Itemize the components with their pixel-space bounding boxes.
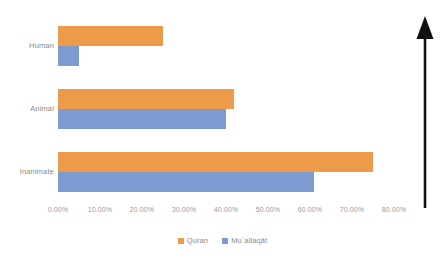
bar-animal-quran xyxy=(58,89,234,109)
bar-human-muallaqat xyxy=(58,46,79,66)
bar-human-quran xyxy=(58,26,163,46)
arrow-up-icon xyxy=(410,14,440,208)
x-axis-tick-2: 20.00% xyxy=(130,206,154,213)
plot-area xyxy=(58,14,394,204)
bar-group-inanimate xyxy=(58,152,394,192)
x-axis-tick-4: 40.00% xyxy=(214,206,238,213)
legend-item-muallaqat: Muʿallaqāt xyxy=(222,236,267,245)
chart-legend: Quran Muʿallaqāt xyxy=(0,236,445,245)
legend-label-muallaqat: Muʿallaqāt xyxy=(231,236,267,245)
legend-swatch-quran xyxy=(178,238,184,244)
x-axis-tick-7: 70.00% xyxy=(340,206,364,213)
y-axis-category-labels: Human Animal Inanimate xyxy=(0,14,54,204)
x-axis: 0.00%10.00%20.00%30.00%40.00%50.00%60.00… xyxy=(58,206,394,220)
upward-arrow-annotation xyxy=(410,14,440,208)
x-axis-tick-3: 30.00% xyxy=(172,206,196,213)
y-axis-label-animal: Animal xyxy=(0,104,54,113)
x-axis-tick-8: 80.00% xyxy=(382,206,406,213)
x-axis-tick-0: 0.00% xyxy=(48,206,68,213)
bar-animal-muallaqat xyxy=(58,109,226,129)
bar-group-animal xyxy=(58,89,394,129)
legend-label-quran: Quran xyxy=(187,236,208,245)
bar-group-human xyxy=(58,26,394,66)
legend-swatch-muallaqat xyxy=(222,238,228,244)
bar-inanimate-muallaqat xyxy=(58,172,314,192)
legend-item-quran: Quran xyxy=(178,236,208,245)
bar-inanimate-quran xyxy=(58,152,373,172)
y-axis-label-inanimate: Inanimate xyxy=(0,167,54,176)
x-axis-tick-6: 60.00% xyxy=(298,206,322,213)
y-axis-label-human: Human xyxy=(0,41,54,50)
x-axis-tick-1: 10.00% xyxy=(88,206,112,213)
x-axis-tick-5: 50.00% xyxy=(256,206,280,213)
bar-chart: Human Animal Inanimate 0.00%10.00%20.00%… xyxy=(0,0,445,256)
